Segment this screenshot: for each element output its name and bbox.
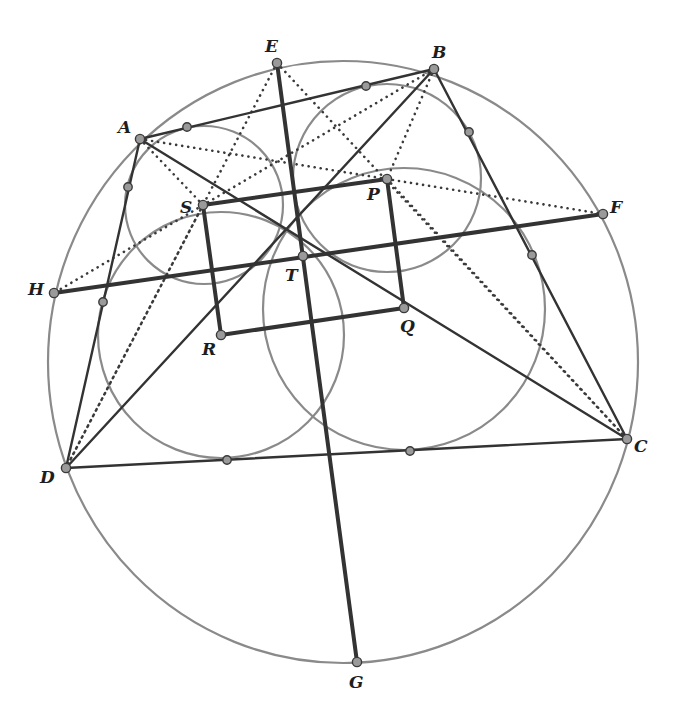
geometry-diagram: A B C D E F G H P Q R S T (0, 0, 678, 722)
point-h (49, 288, 58, 297)
point-t (298, 251, 307, 260)
label-g: G (349, 672, 364, 692)
label-t: T (285, 265, 299, 285)
label-h: H (27, 279, 45, 299)
point-g (352, 657, 361, 666)
tangent-point (183, 123, 191, 131)
label-s: S (180, 197, 192, 217)
tangent-point (528, 251, 536, 259)
label-f: F (609, 197, 624, 217)
label-a: A (116, 117, 131, 137)
point-q (399, 303, 408, 312)
point-s (198, 200, 207, 209)
point-a (135, 134, 144, 143)
tangent-point (99, 298, 107, 306)
point-c (622, 434, 631, 443)
bold-segment-hf (54, 214, 603, 293)
segment-cd (66, 439, 627, 468)
point-e (272, 58, 281, 67)
point-b (429, 64, 438, 73)
solid-lines (66, 69, 627, 468)
label-e: E (264, 36, 279, 56)
point-d (61, 463, 70, 472)
label-d: D (39, 467, 55, 487)
dotted-segment-bp (387, 69, 434, 179)
dotted-segment-pc (387, 179, 627, 439)
point-p (382, 174, 391, 183)
tangent-point (465, 128, 473, 136)
label-r: R (201, 339, 216, 359)
label-b: B (431, 42, 446, 62)
point-r (216, 330, 225, 339)
label-q: Q (400, 316, 415, 336)
tangent-point (124, 183, 132, 191)
label-p: P (366, 184, 381, 204)
tangent-point (406, 447, 414, 455)
point-f (598, 209, 607, 218)
label-c: C (634, 436, 648, 456)
tangent-point (362, 82, 370, 90)
bold-segment-eg (277, 63, 357, 662)
tangent-point (223, 456, 231, 464)
dotted-lines (54, 63, 627, 468)
